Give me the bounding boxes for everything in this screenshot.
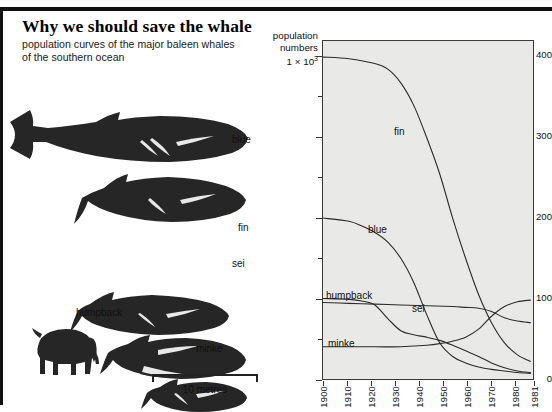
population-chart: populationnumbers1 × 103 0 100 200 300 4… bbox=[246, 26, 552, 412]
x-tick-label-1910: 1910 bbox=[342, 386, 353, 408]
x-tick-label-1970: 1970 bbox=[486, 386, 497, 408]
x-tick-label-1960: 1960 bbox=[462, 386, 473, 408]
top-divider-rule bbox=[0, 7, 552, 11]
x-tick-label-1920: 1920 bbox=[366, 386, 377, 408]
x-tick-label-1950: 1950 bbox=[438, 386, 449, 408]
y-tick-mark-0 bbox=[316, 380, 322, 381]
scale-bar-line bbox=[152, 374, 258, 376]
scale-bar-tick-left bbox=[152, 374, 154, 382]
curve-label-blue: blue bbox=[368, 224, 387, 235]
elephant-silhouette bbox=[32, 328, 99, 375]
page-title: Why we should save the whale bbox=[22, 16, 252, 37]
curve-label-humpback: humpback bbox=[326, 290, 372, 301]
whale-silhouettes bbox=[0, 62, 262, 412]
blue-whale-silhouette bbox=[10, 110, 248, 162]
y-axis-title-text-3: 1 × 10 bbox=[287, 56, 315, 67]
population-curves bbox=[323, 41, 533, 379]
x-tick-label-1940: 1940 bbox=[414, 386, 425, 408]
y-axis-title: populationnumbers1 × 103 bbox=[246, 30, 318, 68]
whale-size-comparison-panel: blue fin sei humpback minke bbox=[0, 62, 262, 412]
whale-label-minke: minke bbox=[196, 343, 223, 354]
x-tick-label-1900: 1900 bbox=[318, 386, 329, 408]
x-tick-label-1981: 1981 bbox=[529, 386, 540, 408]
plot-area bbox=[322, 40, 534, 380]
infographic-page: Why we should save the whale population … bbox=[0, 0, 552, 412]
curve-label-fin: fin bbox=[394, 126, 405, 137]
x-tick-label-1930: 1930 bbox=[390, 386, 401, 408]
page-subtitle: population curves of the major baleen wh… bbox=[22, 38, 235, 63]
scale-bar-label: 10 metres bbox=[152, 384, 258, 395]
curve-label-minke: minke bbox=[328, 338, 355, 349]
fin-whale-silhouette bbox=[74, 174, 246, 224]
whale-label-humpback: humpback bbox=[76, 307, 122, 318]
curve-sei bbox=[323, 303, 530, 323]
whale-label-sei: sei bbox=[232, 258, 245, 269]
x-tick-label-1980: 1980 bbox=[510, 386, 521, 408]
curve-label-sei: sei bbox=[412, 303, 425, 314]
y-axis-title-text: population bbox=[273, 30, 318, 41]
y-axis-title-text-2: numbers bbox=[280, 42, 318, 53]
